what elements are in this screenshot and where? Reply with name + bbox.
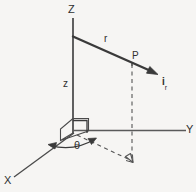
unit-vector-label: ir — [162, 77, 167, 89]
radius-vector-line — [73, 37, 152, 72]
radius-vector-arrowhead — [147, 67, 159, 75]
x-axis-line — [14, 133, 74, 177]
x-axis-label: X — [4, 175, 11, 186]
corner-parallelogram — [61, 119, 89, 141]
projection-radial-dashed — [77, 135, 128, 159]
y-axis-label: Y — [186, 124, 193, 135]
azimuth-arc-arrowhead-r — [88, 138, 97, 145]
unit-vector-subscript: r — [165, 84, 167, 91]
radius-vector-label: r — [104, 34, 107, 44]
azimuth-angle-label: θ — [74, 140, 80, 151]
azimuth-arc-arrowhead-x — [48, 143, 57, 150]
figure-container: Z Y X r z P ir θ — [0, 0, 196, 192]
diagram-canvas — [0, 0, 196, 192]
point-p-label: P — [132, 51, 139, 61]
z-axis-label: Z — [68, 4, 75, 15]
height-component-label: z — [63, 79, 68, 89]
